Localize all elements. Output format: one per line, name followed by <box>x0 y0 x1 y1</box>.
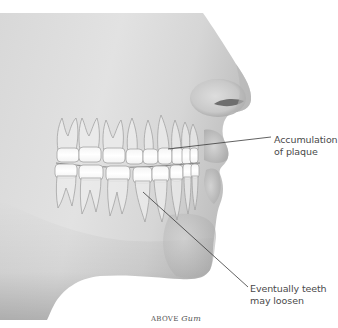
annotation-plaque-line1: Accumulation <box>274 134 338 146</box>
chin <box>163 214 216 278</box>
annotation-loosen: Eventually teeth may loosen <box>250 283 327 307</box>
caption-word: Gum <box>181 314 201 323</box>
upper-lip <box>204 130 228 163</box>
annotation-loosen-line2: may loosen <box>250 295 327 307</box>
figure-caption: ABOVE Gum <box>151 314 201 323</box>
caption-prefix: ABOVE <box>151 315 179 323</box>
annotation-plaque-line2: of plaque <box>274 146 338 158</box>
annotation-loosen-line1: Eventually teeth <box>250 283 327 295</box>
annotation-plaque: Accumulation of plaque <box>274 134 338 158</box>
